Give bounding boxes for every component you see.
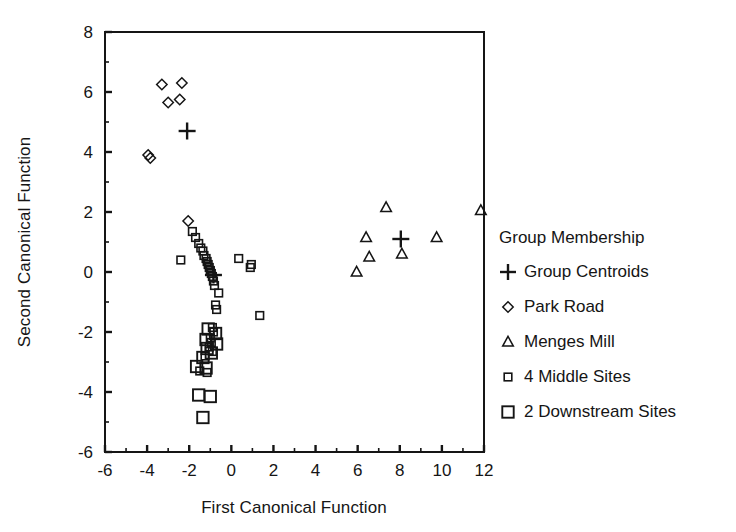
data-point	[175, 94, 185, 104]
series-group-centroids	[179, 123, 410, 284]
data-point	[179, 123, 196, 140]
x-tick-label: 6	[353, 461, 362, 480]
x-tick-label: 0	[227, 461, 236, 480]
triangle-marker-icon	[503, 336, 514, 346]
y-tick-label: 2	[84, 203, 93, 222]
legend-entries: Group CentroidsPark RoadMenges Mill4 Mid…	[500, 262, 676, 421]
x-tick-label: 10	[432, 461, 451, 480]
data-point	[361, 232, 372, 242]
legend-entry-label: Group Centroids	[524, 262, 649, 281]
data-point	[203, 369, 211, 377]
x-tick-label: 4	[311, 461, 320, 480]
legend-entry-label: Park Road	[524, 297, 604, 316]
y-axis: -6-4-202468	[78, 23, 112, 462]
data-point	[351, 266, 362, 276]
y-tick-label: 8	[84, 23, 93, 42]
plot-frame	[105, 32, 484, 452]
legend-entry: 4 Middle Sites	[504, 367, 631, 386]
data-point	[157, 79, 167, 89]
small-square-marker-icon	[504, 373, 512, 381]
x-axis-title: First Canonical Function	[201, 498, 387, 517]
data-point	[193, 389, 204, 400]
data-point	[205, 391, 216, 402]
x-axis: -6-4-2024681012	[97, 445, 493, 480]
data-point	[177, 256, 185, 264]
y-tick-label: -2	[78, 323, 93, 342]
data-point	[183, 216, 193, 226]
scatter-plot-figure: -6-4-2024681012 -6-4-202468 First Canoni…	[0, 0, 736, 532]
y-tick-label: -4	[78, 383, 93, 402]
data-point	[197, 412, 208, 423]
legend-title: Group Membership	[499, 228, 645, 247]
x-tick-label: -4	[140, 461, 155, 480]
legend-entry: Menges Mill	[503, 332, 615, 351]
legend-entry-label: 2 Downstream Sites	[524, 402, 676, 421]
data-point	[397, 248, 408, 258]
y-axis-title: Second Canonical Function	[15, 137, 34, 347]
x-tick-label: 12	[475, 461, 494, 480]
y-tick-label: 0	[84, 263, 93, 282]
series-park-road	[143, 78, 193, 226]
x-tick-label: 2	[269, 461, 278, 480]
y-tick-label: -6	[78, 443, 93, 462]
legend-entry: 2 Downstream Sites	[502, 402, 676, 421]
legend-entry-label: 4 Middle Sites	[524, 367, 631, 386]
plot-border	[105, 32, 484, 452]
x-tick-label: -6	[97, 461, 112, 480]
data-point	[431, 232, 442, 242]
data-point	[392, 231, 409, 248]
y-tick-label: 4	[84, 143, 93, 162]
x-tick-label: -2	[182, 461, 197, 480]
data-point	[163, 97, 173, 107]
y-tick-label: 6	[84, 83, 93, 102]
large-square-marker-icon	[502, 406, 513, 417]
legend-entry-label: Menges Mill	[524, 332, 615, 351]
legend-entry: Park Road	[503, 297, 605, 316]
data-point	[256, 312, 264, 320]
plus-marker-icon	[500, 264, 516, 280]
canonical-discriminant-scatter-chart: -6-4-2024681012 -6-4-202468 First Canoni…	[0, 0, 736, 532]
data-point	[381, 202, 392, 212]
series-4-middle-sites	[177, 228, 264, 377]
data-points-layer	[143, 78, 486, 423]
series-menges-mill	[351, 202, 486, 276]
x-tick-label: 8	[395, 461, 404, 480]
legend: Group Membership Group CentroidsPark Roa…	[499, 228, 676, 421]
data-point	[364, 251, 375, 261]
diamond-marker-icon	[503, 302, 513, 312]
data-point	[177, 78, 187, 88]
data-point	[215, 289, 223, 297]
legend-entry: Group Centroids	[500, 262, 649, 281]
data-point	[235, 255, 243, 263]
